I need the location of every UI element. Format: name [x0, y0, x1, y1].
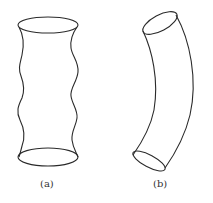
- outer-curve-b: [165, 15, 193, 168]
- top-ellipse-a: [18, 17, 78, 33]
- right-wavy-side-a: [71, 27, 78, 157]
- inner-curve-b: [133, 31, 156, 155]
- panel-b-bent-tube: (b): [130, 7, 193, 189]
- panel-label-b: (b): [153, 178, 167, 189]
- top-ellipse-b: [139, 7, 180, 39]
- bottom-ellipse-a: [18, 148, 78, 166]
- left-wavy-side-a: [18, 27, 24, 157]
- bottom-ellipse-b: [130, 147, 167, 174]
- panel-a-wavy-tube: (a): [18, 17, 78, 189]
- figure-canvas: (a) (b): [0, 0, 213, 203]
- panel-label-a: (a): [40, 178, 54, 189]
